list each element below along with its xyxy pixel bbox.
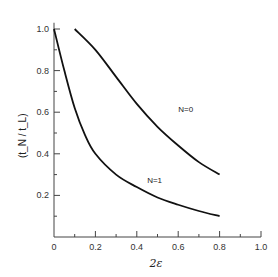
x-axis-label: 2ε <box>149 257 163 270</box>
y-tick-label: 1.0 <box>36 24 49 34</box>
annotation-n1: N=1 <box>147 176 162 185</box>
curve-n0 <box>75 29 220 175</box>
x-tick-label: 0.2 <box>89 242 102 252</box>
x-tick-label: 0.6 <box>172 242 185 252</box>
chart: 00.20.40.60.81.00.20.40.60.81.0N=0N=12ε(… <box>0 0 278 277</box>
x-tick-label: 0 <box>51 242 56 252</box>
curves <box>54 29 220 216</box>
y-axis-label: (t_N / t_L) <box>17 114 28 158</box>
y-tick-label: 0.4 <box>36 149 49 159</box>
axes <box>54 23 261 237</box>
annotation-n0: N=0 <box>178 105 193 114</box>
x-tick-label: 0.8 <box>213 242 226 252</box>
labels: 00.20.40.60.81.00.20.40.60.81.0N=0N=12ε(… <box>17 24 267 270</box>
curve-n1 <box>54 29 220 216</box>
x-tick-label: 1.0 <box>255 242 268 252</box>
y-tick-label: 0.8 <box>36 66 49 76</box>
x-tick-label: 0.4 <box>131 242 144 252</box>
y-tick-label: 0.2 <box>36 190 49 200</box>
y-tick-label: 0.6 <box>36 107 49 117</box>
